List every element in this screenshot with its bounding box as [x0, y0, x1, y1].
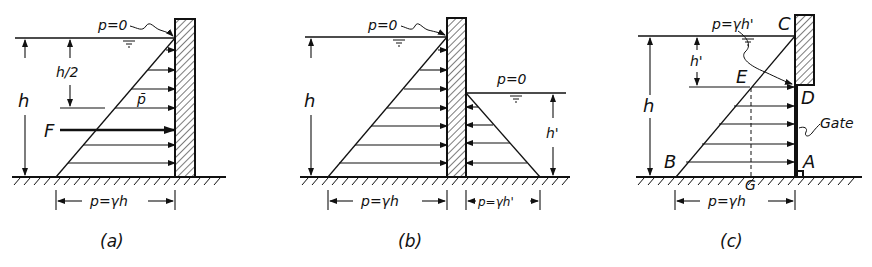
- pressure-arrows-right: [466, 107, 527, 163]
- panel-b-caption: (b): [398, 231, 422, 251]
- depth-label: h: [643, 95, 654, 116]
- half-depth-label: h/2: [56, 64, 79, 80]
- surface-pressure-leader: [401, 24, 445, 35]
- wall: [175, 19, 195, 177]
- depth-label: h: [18, 90, 29, 111]
- base-pressure-label-right: p=γh': [477, 195, 514, 209]
- hydrostatic-pressure-diagram: F p̄ h h/2 p=0 p=γh (a): [0, 0, 872, 267]
- point-G-label: G: [745, 177, 756, 193]
- point-A-label: A: [802, 151, 815, 172]
- wall: [795, 15, 814, 85]
- panel-c-caption: (c): [720, 231, 743, 251]
- mean-pressure-label: p̄: [136, 91, 146, 107]
- gate-label: Gate: [820, 115, 854, 131]
- surface-pressure-label-left: p=0: [367, 17, 398, 33]
- surface-pressure-label-right: p=0: [496, 71, 527, 87]
- surface-pressure-label: p=0: [97, 17, 128, 33]
- depth-to-gate-label: h': [690, 53, 703, 69]
- pressure-distribution-right: [466, 93, 540, 177]
- panel-a: F p̄ h h/2 p=0 p=γh (a): [12, 17, 226, 251]
- panel-c: h h' p=γh' C E D B A G Gate p=γh (c): [636, 13, 862, 251]
- water-surface-symbol-right: [510, 96, 522, 102]
- ground-hatching: [302, 178, 568, 185]
- base-pressure-label: p=γh: [89, 193, 128, 209]
- wall: [447, 18, 466, 177]
- depth-label-right: h': [546, 125, 559, 141]
- ground-hatching: [14, 178, 220, 185]
- force-label: F: [44, 120, 55, 141]
- point-B-label: B: [664, 151, 676, 172]
- gate-leader: [799, 124, 820, 136]
- base-pressure-label-left: p=γh: [360, 193, 399, 209]
- point-E-label: E: [736, 66, 748, 87]
- pressure-arrows: [68, 50, 175, 163]
- pressure-arrows-left: [339, 50, 447, 163]
- pressure-at-D-label: p=γh': [711, 16, 754, 32]
- surface-pressure-leader: [130, 24, 173, 36]
- water-surface-symbol-left: [393, 40, 405, 46]
- pressure-distribution-left: [328, 37, 447, 177]
- water-surface-symbol: [123, 41, 135, 47]
- base-pressure-label: p=γh: [707, 193, 746, 209]
- point-C-label: C: [778, 13, 791, 34]
- depth-label-left: h: [304, 90, 315, 111]
- point-D-label: D: [801, 87, 815, 108]
- pressure-arrows: [686, 87, 794, 162]
- panel-b: h h' p=0 p=0 p=γh p=γh' (b): [300, 17, 570, 251]
- panel-a-caption: (a): [100, 231, 124, 251]
